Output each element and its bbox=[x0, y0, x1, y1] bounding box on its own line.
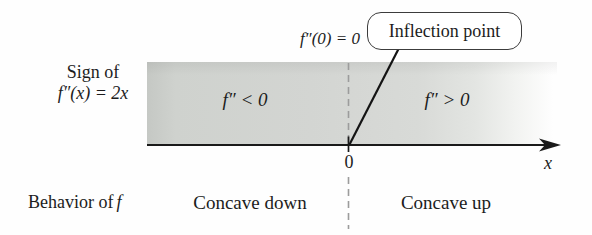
behavior-row-label-prefix: Behavior of bbox=[28, 192, 113, 212]
sign-row-label: Sign of f″(x) = 2x bbox=[34, 62, 152, 103]
behavior-row-label: Behavior off bbox=[28, 192, 122, 213]
inflection-point-callout: Inflection point bbox=[367, 12, 522, 50]
second-derivative-zero-annotation: f″(0) = 0 bbox=[248, 29, 360, 49]
concavity-sign-diagram: Sign of f″(x) = 2x f″(0) = 0 Inflection … bbox=[0, 0, 592, 235]
region-label-negative: f″ < 0 bbox=[195, 89, 295, 111]
behavior-label-concave-up: Concave up bbox=[393, 192, 499, 214]
origin-label: 0 bbox=[334, 152, 364, 173]
sign-row-label-line1: Sign of bbox=[34, 62, 152, 83]
inflection-point-callout-label: Inflection point bbox=[389, 21, 500, 42]
region-label-positive: f″ > 0 bbox=[397, 89, 497, 111]
callout-pointer-line bbox=[350, 48, 400, 145]
sign-row-label-line2: f″(x) = 2x bbox=[34, 83, 152, 104]
x-axis-label: x bbox=[544, 153, 552, 174]
behavior-label-concave-down: Concave down bbox=[186, 192, 314, 214]
behavior-row-label-f: f bbox=[116, 192, 121, 212]
